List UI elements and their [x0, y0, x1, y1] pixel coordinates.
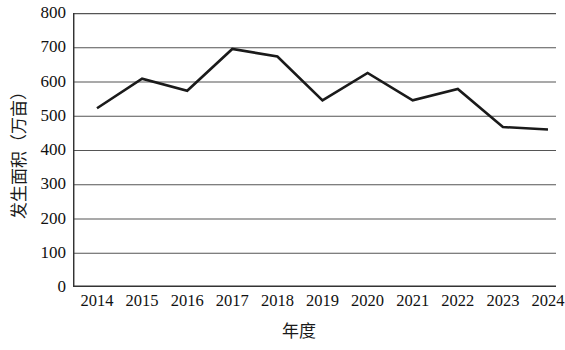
x-tick-label-2021: 2021 [396, 291, 429, 311]
y-tick-label-600: 600 [41, 72, 67, 92]
x-axis-title: 年度 [0, 317, 558, 342]
data-line-series [97, 49, 548, 129]
y-tick-label-300: 300 [41, 174, 67, 194]
y-tick-label-500: 500 [41, 106, 67, 126]
data-series-group [97, 49, 548, 129]
x-axis-title-text: 年度 [282, 317, 316, 342]
gridlines [73, 14, 556, 254]
y-tick-label-200: 200 [41, 209, 67, 229]
x-tick-label-2016: 2016 [171, 291, 204, 311]
x-tick-label-2019: 2019 [306, 291, 339, 311]
y-tick-label-700: 700 [41, 37, 67, 57]
y-tick-label-100: 100 [41, 243, 67, 263]
plot-area [73, 13, 556, 287]
y-tick-label-800: 800 [41, 3, 67, 23]
x-tick-label-2024: 2024 [532, 291, 565, 311]
y-axis-tick-labels: 0100200300400500600700800 [30, 0, 70, 300]
x-tick-label-2022: 2022 [441, 291, 474, 311]
x-tick-label-2015: 2015 [126, 291, 159, 311]
y-axis-title: 发生面积（万亩） [0, 0, 34, 300]
y-axis-title-text: 发生面积（万亩） [5, 82, 30, 218]
x-tick-label-2020: 2020 [351, 291, 384, 311]
x-tick-label-2023: 2023 [486, 291, 519, 311]
x-tick-label-2014: 2014 [81, 291, 114, 311]
x-tick-label-2017: 2017 [216, 291, 249, 311]
x-tick-label-2018: 2018 [261, 291, 294, 311]
x-axis-tick-labels: 2014201520162017201820192020202120222023… [0, 291, 558, 317]
plot-svg [73, 13, 556, 287]
y-tick-label-400: 400 [41, 140, 67, 160]
